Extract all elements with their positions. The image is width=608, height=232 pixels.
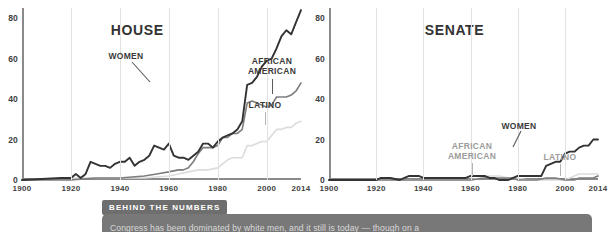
behind-the-numbers-banner: BEHIND THE NUMBERS Congress has been dom… [0,198,602,232]
senate-annotation-latino: LATINO [544,153,577,163]
y-tick-80: 80 [315,13,325,23]
series-line-women [22,10,301,180]
gridline-1920 [376,8,377,180]
senate-leader-african-american [472,163,473,176]
house-plot-area: 0204060801900192019401960198020002014 [22,8,301,180]
x-tick-2000: 2000 [555,184,574,193]
y-tick-60: 60 [8,54,18,64]
house-chart-panel: HOUSE 0204060801900192019401960198020002… [0,0,305,196]
senate-leader-latino [560,164,561,176]
house-annotation-women: WOMEN [108,52,143,62]
banner-body: Congress has been dominated by white men… [102,214,592,232]
banner-tab-label: BEHIND THE NUMBERS [102,200,227,215]
x-tick-1980: 1980 [508,184,527,193]
y-tick-80: 80 [8,13,18,23]
gridline-2000 [267,8,268,180]
house-leader-african-american [272,79,273,94]
house-annotation-african-american: AFRICAN AMERICAN [248,57,296,76]
gridline-1920 [71,8,72,180]
y-tick-60: 60 [315,54,325,64]
senate-leader-women [513,131,537,151]
senate-annotation-african-american: AFRICAN AMERICAN [448,142,496,161]
charts-container: HOUSE 0204060801900192019401960198020002… [0,0,602,196]
series-line-african-american [22,83,301,180]
x-tick-1900: 1900 [13,184,32,193]
banner-body-text: Congress has been dominated by white men… [110,223,419,232]
house-leader-women [130,62,158,84]
x-tick-1940: 1940 [110,184,129,193]
house-series-lines [22,8,301,180]
gridline-1940 [120,8,121,180]
x-tick-1940: 1940 [414,184,433,193]
gridline-1940 [423,8,424,180]
senate-chart-panel: SENATE 020406080190019201940196019802000… [307,0,602,196]
x-tick-1980: 1980 [208,184,227,193]
gridline-1980 [218,8,219,180]
y-tick-40: 40 [8,94,18,104]
x-tick-1920: 1920 [367,184,386,193]
y-tick-20: 20 [315,135,325,145]
gridline-1960 [169,8,170,180]
x-tick-1960: 1960 [159,184,178,193]
x-tick-2000: 2000 [257,184,276,193]
y-tick-40: 40 [315,94,325,104]
y-tick-20: 20 [8,135,18,145]
x-tick-1920: 1920 [61,184,80,193]
house-annotation-latino: LATINO [249,101,282,111]
house-leader-latino [265,112,266,125]
x-tick-1960: 1960 [461,184,480,193]
x-tick-2014: 2014 [589,184,608,193]
x-tick-1900: 1900 [320,184,339,193]
series-line-latino [22,121,301,180]
gridline-1980 [518,8,519,180]
